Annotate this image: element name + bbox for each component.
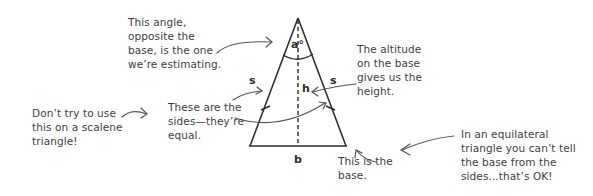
equilateral-annotation: In an equilateral triangle you can’t tel… — [461, 127, 576, 183]
side-label-right: s — [330, 74, 337, 87]
sides-annotation: These are the sides—they’re equal. — [168, 100, 244, 142]
apex-angle-label: a° — [291, 38, 304, 51]
arrow-equilateral — [402, 136, 454, 150]
arrow-to-angle — [217, 42, 271, 53]
angle-annotation: This angle, opposite the base, is the on… — [128, 15, 221, 71]
altitude-annotation: The altitude on the base gives us the he… — [357, 42, 422, 98]
arrow-scalene — [122, 112, 146, 117]
side-label-left: s — [249, 74, 256, 87]
arrow-to-right-side — [235, 103, 325, 123]
arrow-to-left-side — [233, 91, 262, 100]
base-label: b — [294, 153, 302, 166]
altitude-label: h — [302, 82, 310, 95]
base-annotation: This is the base. — [338, 154, 393, 182]
scalene-warning-annotation: Don’t try to use this on a scalene trian… — [32, 106, 123, 148]
